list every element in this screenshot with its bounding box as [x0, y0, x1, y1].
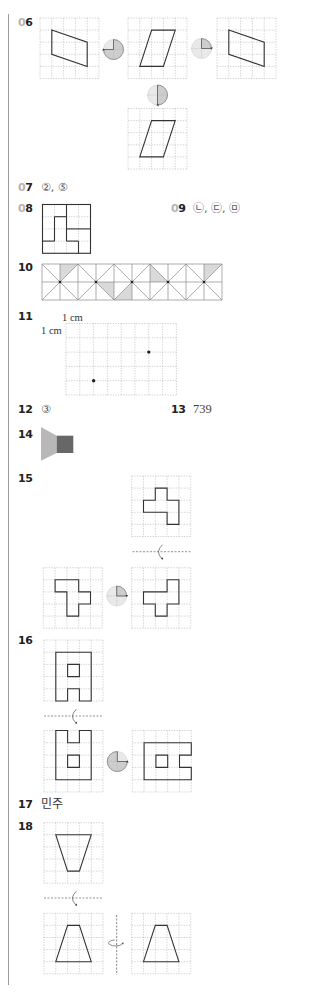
number-digit: 7	[25, 181, 32, 194]
question-14-number: 14	[18, 429, 33, 441]
q16-figure-right	[132, 731, 191, 793]
q06-rotate-180-icon	[148, 85, 168, 106]
point-dot	[203, 281, 206, 284]
q06-figure-rotated-c	[128, 109, 187, 170]
shape-outline	[55, 580, 90, 616]
q06-rotate-270-icon	[102, 40, 123, 60]
q06-figure-rotated-a	[128, 18, 187, 79]
shape-outline	[140, 121, 175, 157]
q16-figure-left	[44, 731, 103, 793]
q06-rotate-90-icon	[192, 39, 213, 59]
diagonal-line	[42, 282, 60, 300]
question-09-number: 09	[171, 203, 186, 215]
diagonal-line	[96, 264, 114, 282]
point-dot	[59, 281, 62, 284]
q18-figure-right	[132, 913, 191, 974]
diagonal-line	[42, 264, 60, 282]
question-10-number: 10	[18, 262, 33, 274]
diagonal-line	[78, 282, 96, 300]
shape-outline	[56, 925, 91, 961]
question-06-number: 06	[18, 17, 33, 29]
unit-label-vertical: 1 cm	[41, 325, 62, 336]
question-07-number: 07	[18, 182, 33, 194]
number-digit: 6	[25, 16, 32, 29]
question-13-number: 13	[171, 404, 186, 416]
diagonal-line	[132, 282, 150, 300]
q16-figure-top	[44, 640, 103, 701]
q18-figure-left	[44, 913, 103, 974]
q15-figure-top	[132, 476, 191, 537]
point-dot	[167, 281, 170, 284]
shape-outline	[156, 755, 168, 767]
flip-arrow-icon	[109, 940, 122, 946]
question-17-number: 17	[18, 799, 33, 811]
question-16-number: 16	[18, 635, 33, 647]
point-dot	[92, 379, 95, 382]
shape-outline	[144, 580, 179, 616]
question-09-answer: ㉡, ㉢, ㉤	[193, 203, 240, 215]
q15-figure-left	[43, 568, 102, 629]
shape-outline	[56, 835, 91, 871]
number-digit: 8	[25, 202, 32, 215]
diagonal-line	[132, 264, 150, 282]
question-11-number: 11	[18, 311, 33, 323]
answer-page: 06 07 ②, ⑤ 08 09 ㉡, ㉢, ㉤ 10 11 1 cm 1 cm…	[0, 0, 321, 993]
diagonal-line	[168, 282, 186, 300]
question-18-number: 18	[18, 821, 33, 833]
q18-figure-top	[44, 823, 103, 884]
diagonal-line	[60, 282, 78, 300]
question-13-answer: 739	[193, 403, 212, 415]
q08-square-puzzle	[43, 205, 91, 254]
diagonal-line	[150, 282, 168, 300]
point-dot	[95, 281, 98, 284]
unit-label-horizontal: 1 cm	[62, 312, 83, 323]
question-15-number: 15	[18, 473, 33, 485]
question-07-answer: ②, ⑤	[41, 182, 68, 194]
q18-vertical-flip-marker	[109, 915, 124, 975]
q15-figure-right	[132, 568, 191, 629]
diagonal-line	[114, 264, 132, 282]
q15-rotate-90-icon	[107, 586, 128, 606]
q14-shape	[41, 427, 73, 461]
question-12-number: 12	[18, 404, 33, 416]
figures-canvas	[0, 0, 321, 993]
q16-flip-marker	[44, 709, 103, 724]
q15-flip-marker	[133, 545, 191, 560]
question-17-answer: 민주	[41, 798, 63, 810]
q06-figure-original	[40, 18, 99, 79]
diagonal-line	[168, 264, 186, 282]
filled-shape	[57, 436, 74, 453]
number-digit: 9	[178, 202, 185, 215]
shape-outline	[229, 30, 264, 66]
diagonal-line	[186, 282, 204, 300]
question-12-answer: ③	[41, 404, 51, 416]
shape-outline	[140, 30, 175, 66]
shape-outline	[68, 664, 80, 676]
point-dot	[147, 350, 150, 353]
filled-shape	[41, 427, 57, 461]
shape-outline	[144, 925, 179, 961]
shape-outline	[68, 755, 80, 767]
q10-triangle-pattern	[42, 264, 222, 300]
q11-dot-grid	[66, 324, 176, 396]
diagonal-line	[186, 264, 204, 282]
point-dot	[131, 281, 134, 284]
diagonal-line	[204, 282, 222, 300]
shape-outline	[144, 488, 179, 524]
q16-rotate-270-icon	[107, 752, 128, 772]
q18-flip-marker	[44, 891, 103, 906]
diagonal-line	[78, 264, 96, 282]
question-08-number: 08	[18, 203, 33, 215]
q06-figure-rotated-b	[217, 18, 276, 79]
shape-outline	[52, 30, 87, 66]
